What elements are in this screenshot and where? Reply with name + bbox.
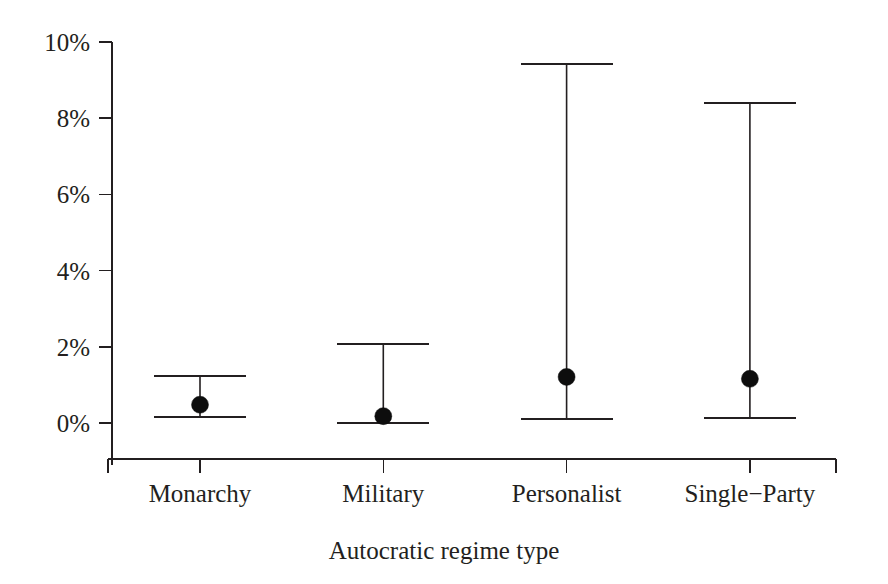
x-tick-label-military: Military (342, 481, 424, 506)
data-series (154, 64, 796, 425)
y-tick-label: 0% (57, 411, 90, 436)
x-tick-label-single-party: Single−Party (685, 481, 816, 506)
y-axis (99, 42, 112, 465)
point-estimate-marker (375, 408, 392, 425)
y-tick-label: 2% (57, 334, 90, 359)
y-tick-label: 8% (57, 106, 90, 131)
point-estimate-marker (558, 368, 575, 385)
y-tick-label: 10% (44, 30, 90, 55)
x-tick-label-monarchy: Monarchy (149, 481, 252, 506)
y-tick-label: 6% (57, 182, 90, 207)
x-axis-title: Autocratic regime type (329, 538, 559, 563)
x-tick-label-personalist: Personalist (512, 481, 622, 506)
point-estimate-marker (192, 396, 209, 413)
point-estimate-marker (741, 370, 758, 387)
x-axis (108, 459, 836, 473)
chart-figure: 0%2%4%6%8%10% MonarchyMilitaryPersonalis… (0, 0, 888, 584)
y-tick-label: 4% (57, 258, 90, 283)
